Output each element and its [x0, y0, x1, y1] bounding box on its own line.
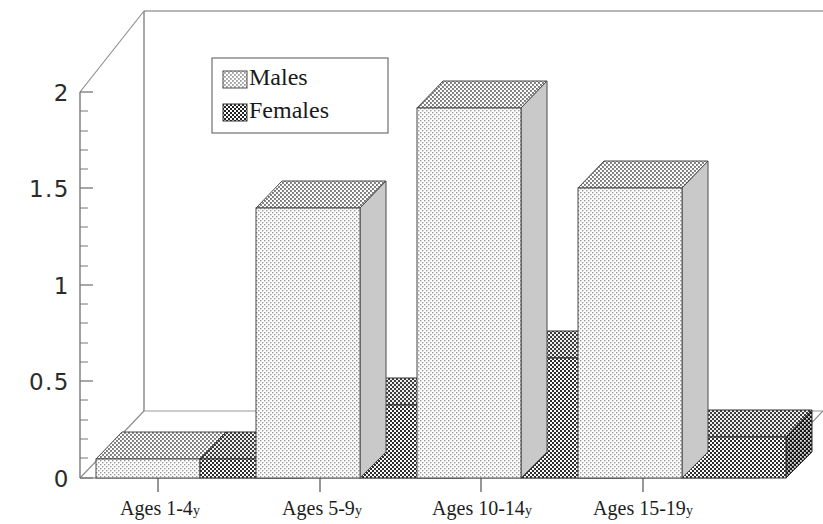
bar-group-4: [578, 161, 812, 478]
x-tick-label-ages-15-19: Ages 15-19y: [568, 497, 718, 520]
x-tick-label-ages-5-9: Ages 5-9y: [247, 497, 397, 520]
legend-swatch-males: [223, 71, 247, 88]
y-tick-label-0: 0: [10, 466, 70, 492]
depth-edge-top: [80, 11, 144, 92]
x-tick-unit-1: y: [193, 503, 200, 518]
x-axis-ticks: [158, 478, 643, 492]
bar-chart: 2 1.5 1 0.5 0 Ages 1-4y Ages 5-9y Ages 1…: [0, 0, 823, 524]
y-tick-label-1: 1: [10, 273, 70, 299]
y-axis-ticks: [80, 92, 93, 478]
x-tick-label-ages-1-4: Ages 1-4y: [85, 497, 235, 520]
legend-label-females: Females: [249, 97, 329, 124]
x-tick-name-4: Ages 15-19: [593, 497, 686, 519]
x-tick-name-2: Ages 5-9: [282, 497, 355, 519]
bar-males-3: [417, 81, 547, 478]
x-tick-label-ages-10-14: Ages 10-14y: [407, 497, 557, 520]
x-tick-name-1: Ages 1-4: [120, 497, 193, 519]
legend-swatch-females: [223, 104, 247, 121]
y-tick-label-2: 2: [10, 80, 70, 106]
y-tick-label-1p5: 1.5: [10, 176, 70, 202]
x-tick-unit-3: y: [525, 503, 532, 518]
x-tick-unit-4: y: [686, 503, 693, 518]
bar-males-4: [578, 161, 708, 478]
y-tick-label-0p5: 0.5: [10, 369, 70, 395]
bar-males-2: [256, 181, 386, 478]
legend-label-males: Males: [249, 64, 308, 91]
x-tick-name-3: Ages 10-14: [432, 497, 525, 519]
chart-canvas: [0, 0, 823, 524]
x-tick-unit-2: y: [355, 503, 362, 518]
